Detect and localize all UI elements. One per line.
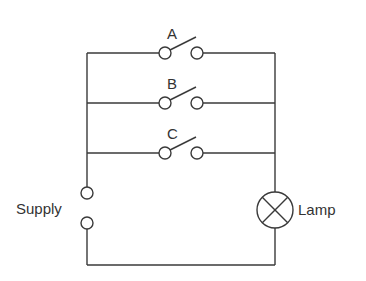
switch-b-right-terminal — [191, 97, 203, 109]
switch-c-left-terminal — [159, 147, 171, 159]
switch-branch-b: B — [87, 75, 275, 109]
switch-branch-c: C — [87, 125, 275, 159]
circuit-diagram: A B C Supply Lamp — [0, 0, 366, 281]
switch-a-left-terminal — [159, 47, 171, 59]
switch-c-right-terminal — [191, 147, 203, 159]
lamp: Lamp — [257, 53, 336, 265]
supply-positive-terminal — [81, 187, 93, 199]
lamp-label: Lamp — [298, 201, 336, 218]
switch-branch-a: A — [87, 25, 275, 59]
supply: Supply — [16, 53, 93, 265]
switch-b-label: B — [167, 75, 177, 92]
switch-b-left-terminal — [159, 97, 171, 109]
switch-c-label: C — [167, 125, 178, 142]
switch-a-label: A — [167, 25, 177, 42]
switch-a-right-terminal — [191, 47, 203, 59]
supply-label: Supply — [16, 200, 62, 217]
supply-negative-terminal — [81, 217, 93, 229]
